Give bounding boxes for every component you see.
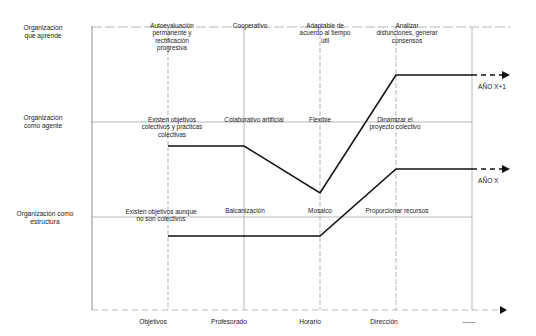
- x-label-objetivos: Objetivos: [118, 318, 188, 325]
- cell-text: Existen objetivos aunque: [118, 208, 204, 215]
- cell-text: Mosaico: [300, 207, 340, 214]
- cell-text: Autoevaluación: [140, 22, 204, 29]
- row-label-agente: Organización como agente: [0, 114, 86, 130]
- x-label-direccion: Dirección: [349, 318, 419, 325]
- row-label-aprende: Organización que aprende: [0, 24, 86, 40]
- cell-text: Flexible: [300, 116, 340, 123]
- cell-estructura-direccion: Proporcionar recursos: [357, 207, 437, 214]
- x-axis-arrow-icon: [500, 306, 507, 314]
- cell-aprende-profesorado: Cooperativo: [220, 22, 280, 29]
- cell-text: Dinamizar el: [360, 116, 430, 123]
- cell-estructura-horario: Mosaico: [300, 207, 340, 214]
- cell-aprende-horario: Adaptable de acuerdo al tiempo útil: [290, 22, 360, 44]
- cell-text: rectificación: [140, 37, 204, 44]
- x-label-horario: Horario: [275, 318, 345, 325]
- x-label-profesorado: Profesorado: [194, 318, 264, 325]
- cell-text: útil: [290, 37, 360, 44]
- row-label-estructura: Organización como estructura: [2, 210, 88, 226]
- cell-text: Adaptable de: [290, 22, 360, 29]
- cell-agente-direccion: Dinamizar el proyecto colectivo: [360, 116, 430, 131]
- diagram-canvas: [0, 0, 536, 336]
- row-label-line: Organización como: [2, 210, 88, 218]
- cell-agente-horario: Flexible: [300, 116, 340, 123]
- cell-aprende-direccion: Analizar disfunciones, generar consensos: [367, 22, 447, 44]
- cell-text: Colaborativo artificial: [214, 116, 294, 123]
- cell-text: Proporcionar recursos: [357, 207, 437, 214]
- year-label-next: AÑO X+1: [478, 83, 506, 90]
- row-label-line: que aprende: [0, 32, 86, 40]
- x-label-more: ------: [434, 318, 504, 325]
- year-label-current: AÑO X: [478, 177, 499, 184]
- cell-aprende-objetivos: Autoevaluación permanente y rectificació…: [140, 22, 204, 52]
- cell-text: Cooperativo: [220, 22, 280, 29]
- cell-text: progresiva: [140, 44, 204, 51]
- cell-text: disfunciones, generar: [367, 29, 447, 36]
- cell-text: Analizar: [367, 22, 447, 29]
- cell-text: Balcanización: [215, 207, 275, 214]
- cell-text: colectivas: [132, 131, 212, 138]
- cell-estructura-profesorado: Balcanización: [215, 207, 275, 214]
- cell-estructura-objetivos: Existen objetivos aunque no son colectiv…: [118, 208, 204, 223]
- cell-agente-profesorado: Colaborativo artificial: [214, 116, 294, 123]
- cell-text: acuerdo al tiempo: [290, 29, 360, 36]
- row-label-line: estructura: [2, 218, 88, 226]
- cell-text: proyecto colectivo: [360, 123, 430, 130]
- row-label-line: como agente: [0, 122, 86, 130]
- year-current-arrow-icon: [502, 165, 510, 173]
- row-label-line: Organización: [0, 24, 86, 32]
- cell-text: permanente y: [140, 29, 204, 36]
- cell-agente-objetivos: Existen objetivos colectivos y prácticas…: [132, 116, 212, 138]
- cell-text: Existen objetivos: [132, 116, 212, 123]
- cell-text: no son colectivos: [118, 215, 204, 222]
- row-label-line: Organización: [0, 114, 86, 122]
- cell-text: colectivos y prácticas: [132, 123, 212, 130]
- cell-text: consensos: [367, 37, 447, 44]
- year-next-arrow-icon: [502, 71, 510, 79]
